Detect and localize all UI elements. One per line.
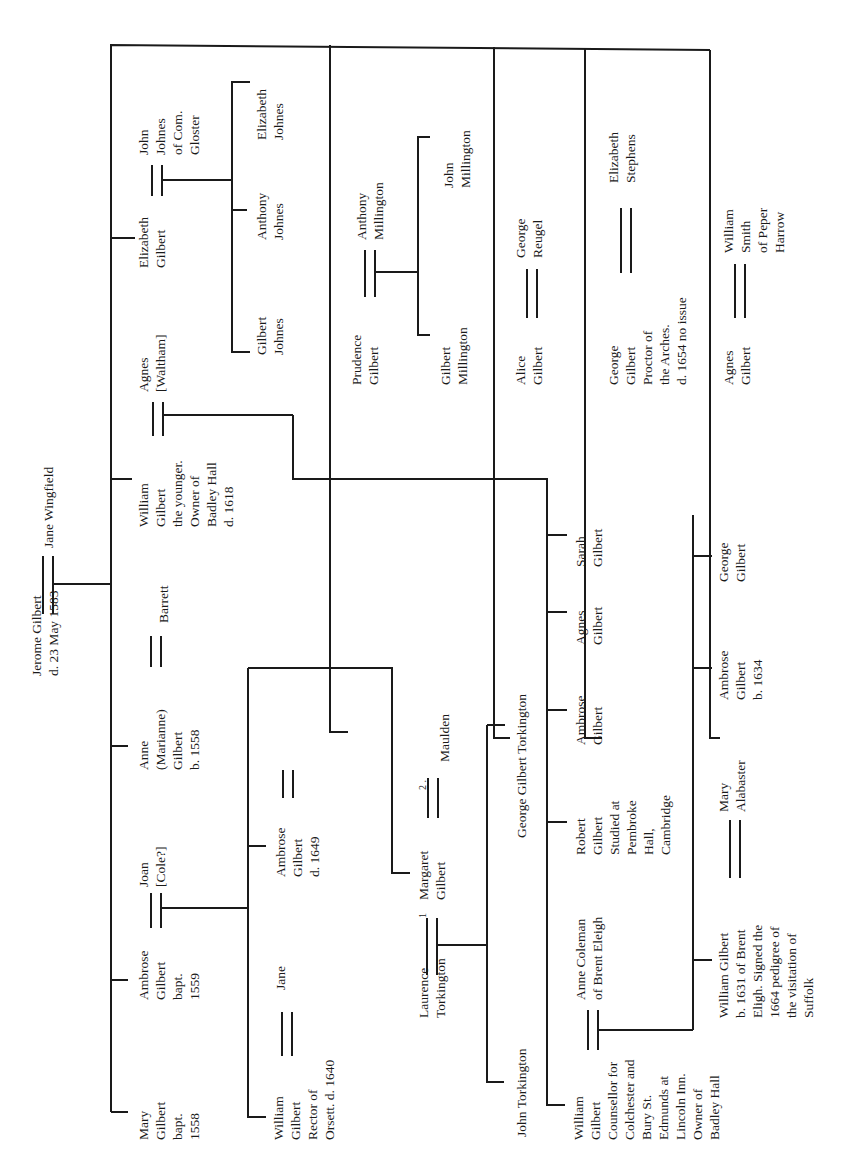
person-elizabeth-johnes: Elizabeth Johnes [253, 89, 287, 140]
person-joan-cole: Joan [Cole?] [135, 847, 169, 887]
person-maulden: Maulden [436, 714, 453, 762]
person-ambrose-gilbert-1634: Ambrose Gilbert b. 1634 [715, 651, 766, 701]
person-ambrose-gilbert: Ambrose Gilbert bapt. 1559 [135, 951, 203, 1001]
person-elizabeth-gilbert: Elizabeth Gilbert [135, 217, 169, 268]
person-anne-gilbert: Anne (Marianne) Gilbert b. 1558 [135, 709, 203, 770]
person-william-smith: William Smith of Peper Harrow [720, 208, 788, 253]
person-alice-gilbert: Alice Gilbert [512, 347, 546, 385]
person-barrett: Barrett [155, 586, 172, 623]
person-george-gilbert-2: George Gilbert [715, 543, 749, 583]
person-elizabeth-stephens: Elizabeth Stephens [605, 132, 639, 183]
person-william-gilbert-rector: William Gilbert Rector of Orsett. d. 164… [270, 1060, 338, 1140]
person-jerome-gilbert: Jerome Gilbert d. 23 May 1583 [28, 591, 62, 677]
person-agnes-waltham: Agnes [Waltham] [135, 335, 169, 392]
person-ambrose-gilbert-3: Ambrose Gilbert [572, 696, 606, 746]
person-jane: Jane [272, 966, 289, 990]
person-anthony-millington: Anthony Millington [353, 182, 387, 240]
person-william-gilbert-counsellor: William Gilbert Counsellor for Colcheste… [570, 1059, 723, 1140]
person-george-gilbert-proctor: George Gilbert Proctor of the Arches. d.… [605, 297, 690, 385]
person-gilbert-millington: Gilbert Millington [437, 327, 471, 385]
person-robert-gilbert: Robert Gilbert Studied at Pembroke Hall,… [572, 795, 674, 855]
person-john-millington: John Millington [440, 130, 474, 188]
person-anne-coleman: Anne Coleman of Brent Eleigh [572, 917, 606, 1000]
person-margaret-gilbert: Margaret Gilbert [415, 851, 449, 900]
person-john-torkington: John Torkington [513, 1049, 530, 1137]
person-john-johnes: John Johnes of Com. Gloster [135, 111, 203, 155]
marriage-order-1: 1 [418, 913, 428, 918]
person-mary-alabaster: Mary Alabaster [715, 760, 749, 812]
person-gilbert-johnes: Gilbert Johnes [253, 317, 287, 355]
person-agnes-gilbert: Agnes Gilbert [720, 347, 754, 385]
person-mary-gilbert: Mary Gilbert bapt. 1558 [135, 1102, 203, 1140]
person-george-reugel: George Reugel [512, 219, 546, 259]
marriage-order-2: 2 . [418, 780, 428, 790]
person-prudence-gilbert: Prudence Gilbert [348, 335, 382, 385]
person-jane-wingfield: Jane Wingfield [40, 467, 57, 548]
pedigree-chart: Jerome Gilbert d. 23 May 1583 Jane Wingf… [0, 0, 857, 1172]
person-sarah-gilbert: Sarah Gilbert [572, 529, 606, 567]
person-agnes-gilbert-2: Agnes Gilbert [572, 607, 606, 645]
person-anthony-johnes: Anthony Johnes [253, 193, 287, 240]
person-george-gilbert-torkington: George Gilbert Torkington [513, 694, 530, 838]
person-laurence-torkington: Laurence Torkington [415, 958, 449, 1018]
person-ambrose-gilbert-1649: Ambrose Gilbert d. 1649 [272, 828, 323, 878]
person-william-gilbert-1631: William Gilbert b. 1631 of Brent Eligh. … [715, 925, 817, 1018]
person-william-gilbert-younger: William Gilbert the younger. Owner of Ba… [135, 460, 237, 527]
